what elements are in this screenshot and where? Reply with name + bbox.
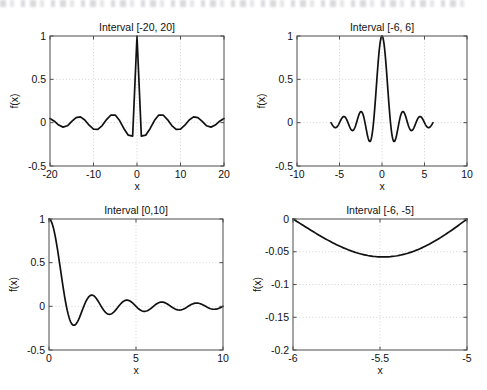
x-tick-label: -5 [462, 352, 471, 364]
x-axis-label: x [133, 364, 139, 376]
y-axis-label: f(x) [255, 93, 267, 108]
plot-title: Interval [0,10] [104, 204, 168, 216]
y-tick-label: 0 [283, 213, 289, 225]
y-axis-label: f(x) [7, 277, 19, 292]
plot-title: Interval [-6, -5] [346, 204, 414, 216]
y-tick-label: 1 [39, 213, 45, 225]
y-tick-label: -0.5 [275, 160, 293, 172]
subplot-1: -20-1001020-0.500.51Interval [-20, 20]xf… [8, 21, 230, 192]
x-tick-label: 20 [218, 168, 230, 180]
y-tick-label: 0.5 [31, 73, 46, 85]
y-tick-label: 0 [40, 116, 46, 128]
y-tick-label: 0 [39, 300, 45, 312]
x-tick-label: -5.5 [371, 352, 389, 364]
y-tick-label: 1 [287, 30, 293, 42]
x-tick-label: 5 [133, 352, 139, 364]
y-tick-label: -0.5 [27, 344, 45, 356]
plot-title: Interval [-6, 6] [350, 21, 414, 33]
plot-curve [50, 36, 224, 136]
matlab-figure: -20-1001020-0.500.51Interval [-20, 20]xf… [0, 0, 487, 390]
x-tick-label: 0 [379, 168, 385, 180]
x-tick-label: 0 [134, 168, 140, 180]
x-tick-label: 10 [217, 352, 229, 364]
subplot-4: -6-5.5-5-0.2-0.15-0.1-0.050Interval [-6,… [251, 204, 472, 376]
x-tick-label: 10 [461, 168, 473, 180]
subplot-3: 0510-0.500.51Interval [0,10]xf(x) [7, 204, 229, 376]
y-axis-label: f(x) [251, 277, 263, 292]
y-tick-label: 0 [287, 116, 293, 128]
x-tick-label: 10 [175, 168, 187, 180]
y-tick-label: -0.5 [28, 160, 46, 172]
subplot-2: -10-50510-0.500.51Interval [-6, 6]xf(x) [255, 21, 473, 192]
y-tick-label: -0.1 [271, 278, 289, 290]
y-tick-label: 0.5 [30, 256, 45, 268]
x-axis-label: x [134, 180, 140, 192]
y-tick-label: 0.5 [278, 73, 293, 85]
y-axis-label: f(x) [8, 93, 20, 108]
y-tick-label: -0.2 [271, 344, 289, 356]
x-tick-label: -6 [288, 352, 297, 364]
y-tick-label: 1 [40, 30, 46, 42]
x-tick-label: 0 [46, 352, 52, 364]
x-axis-label: x [379, 180, 385, 192]
x-tick-label: -5 [335, 168, 344, 180]
plot-title: Interval [-20, 20] [99, 21, 175, 33]
y-tick-label: -0.05 [265, 245, 289, 257]
x-tick-label: -10 [86, 168, 101, 180]
x-axis-label: x [377, 364, 383, 376]
y-tick-label: -0.15 [265, 311, 289, 323]
x-tick-label: 5 [422, 168, 428, 180]
